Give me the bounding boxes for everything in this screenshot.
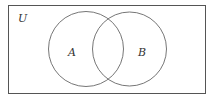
set-b-label: B bbox=[137, 46, 146, 59]
set-b-circle bbox=[93, 12, 167, 86]
venn-diagram: U A B bbox=[0, 0, 213, 97]
set-a-circle bbox=[49, 12, 124, 87]
set-a-label: A bbox=[67, 46, 76, 59]
universe-label: U bbox=[18, 12, 28, 25]
